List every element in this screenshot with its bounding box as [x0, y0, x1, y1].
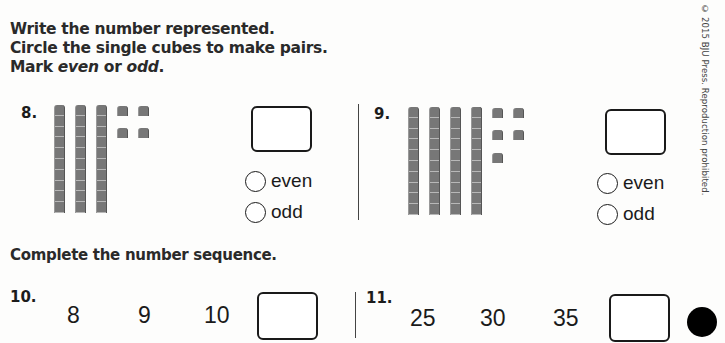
unit-cube[interactable]: [492, 108, 503, 118]
problem-8-number: 8.: [21, 104, 37, 122]
sequence-value: 9: [138, 302, 151, 329]
problem-9-even-option[interactable]: even: [597, 172, 664, 194]
problem-11-answer-box[interactable]: [609, 294, 670, 342]
unit-cube[interactable]: [492, 130, 503, 140]
radio-circle-icon[interactable]: [245, 202, 266, 223]
unit-cube[interactable]: [138, 128, 149, 138]
problem-9-odd-option[interactable]: odd: [597, 203, 655, 225]
unit-cube[interactable]: [513, 130, 524, 140]
sequence-value: 8: [67, 302, 80, 329]
tens-rod: [450, 107, 461, 215]
column-divider: [355, 292, 356, 338]
copyright-notice: © 2015 BJU Press. Reproduction prohibite…: [700, 4, 710, 195]
problem-8-answer-box[interactable]: [251, 106, 312, 152]
instructions: Write the number represented. Circle the…: [10, 20, 328, 77]
instruction-line-2: Circle the single cubes to make pairs.: [10, 39, 328, 58]
sequence-value: 25: [410, 305, 436, 332]
unit-cube[interactable]: [117, 128, 128, 138]
tens-rod: [96, 105, 107, 213]
problem-9-number: 9.: [374, 105, 390, 123]
radio-circle-icon[interactable]: [245, 171, 266, 192]
tens-rod: [471, 107, 482, 215]
black-dot-marker: [687, 307, 717, 337]
tens-rod: [429, 107, 440, 215]
unit-cube[interactable]: [513, 108, 524, 118]
problem-8-odd-option[interactable]: odd: [245, 201, 303, 223]
tens-rod: [408, 107, 419, 215]
problem-10-answer-box[interactable]: [257, 292, 318, 340]
tens-rod: [54, 105, 65, 213]
instruction-line-3: Mark even or odd.: [10, 58, 328, 77]
column-divider: [358, 104, 359, 220]
sequence-value: 30: [480, 305, 506, 332]
instruction-line-1: Write the number represented.: [10, 20, 328, 39]
radio-circle-icon[interactable]: [597, 204, 618, 225]
sequence-value: 35: [553, 305, 579, 332]
problem-10-number: 10.: [10, 288, 37, 306]
problem-8-even-option[interactable]: even: [245, 170, 312, 192]
unit-cube[interactable]: [138, 106, 149, 116]
problem-11-number: 11.: [366, 289, 393, 307]
unit-cube[interactable]: [492, 153, 503, 163]
problem-9-answer-box[interactable]: [605, 109, 666, 155]
sequence-section-title: Complete the number sequence.: [10, 246, 277, 264]
sequence-value: 10: [204, 302, 230, 329]
radio-circle-icon[interactable]: [597, 173, 618, 194]
tens-rod: [75, 105, 86, 213]
unit-cube[interactable]: [117, 106, 128, 116]
